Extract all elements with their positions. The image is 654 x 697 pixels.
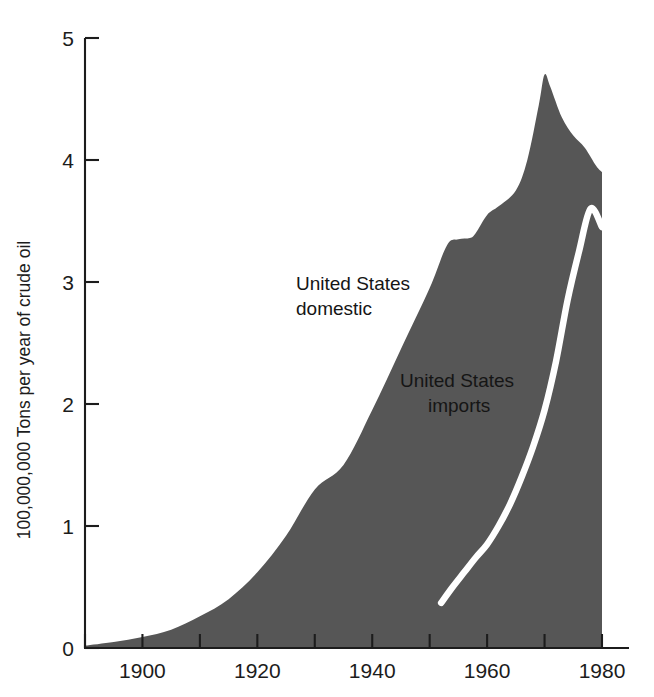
- annotation-domestic-line2: domestic: [296, 298, 372, 319]
- x-tick-label-1940: 1940: [349, 659, 396, 682]
- annotation-imports-line1: United States: [400, 370, 514, 391]
- x-tick-label-1980: 1980: [579, 659, 626, 682]
- chart-container: 012345 19001920194019601980 100,000,000 …: [0, 0, 654, 697]
- y-tick-label-5: 5: [62, 27, 74, 50]
- annotation-domestic-line1: United States: [296, 273, 410, 294]
- y-tick-label-3: 3: [62, 271, 74, 294]
- crude-oil-area-chart: 012345 19001920194019601980 100,000,000 …: [0, 0, 654, 697]
- y-tick-label-1: 1: [62, 515, 74, 538]
- y-axis-title: 100,000,000 Tons per year of crude oil: [14, 241, 34, 539]
- y-tick-label-2: 2: [62, 393, 74, 416]
- y-tick-label-4: 4: [62, 149, 74, 172]
- x-tick-label-1900: 1900: [119, 659, 166, 682]
- x-tick-label-1920: 1920: [234, 659, 281, 682]
- y-tick-label-0: 0: [62, 637, 74, 660]
- annotation-imports-line2: imports: [428, 395, 490, 416]
- x-tick-label-1960: 1960: [464, 659, 511, 682]
